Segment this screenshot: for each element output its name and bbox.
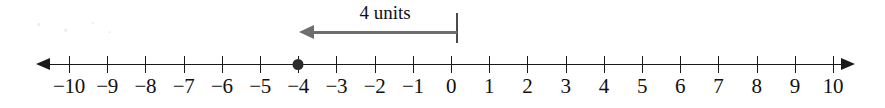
tick-7 — [718, 56, 719, 73]
tick-label-3: 3 — [560, 74, 570, 98]
tick-label--5: −5 — [249, 74, 271, 98]
tick--6 — [222, 56, 223, 73]
tick-label--8: −8 — [135, 74, 157, 98]
tick-label--3: −3 — [326, 74, 348, 98]
tick--1 — [413, 56, 414, 73]
tick--10 — [69, 56, 70, 73]
tick-label-10: 10 — [823, 74, 843, 98]
tick-label--9: −9 — [96, 74, 118, 98]
number-line-axis — [44, 64, 844, 65]
tick-label-5: 5 — [637, 74, 647, 98]
tick-3 — [566, 56, 567, 73]
tick-2 — [527, 56, 528, 73]
tick-label-2: 2 — [522, 74, 532, 98]
tick-label--1: −1 — [402, 74, 424, 98]
tick-label--2: −2 — [364, 74, 386, 98]
number-line-figure: 4 units −10−9−8−7−6−5−4−3−2−101234567891… — [0, 0, 885, 108]
tick--5 — [260, 56, 261, 73]
tick-label-8: 8 — [751, 74, 761, 98]
tick-label-9: 9 — [790, 74, 800, 98]
tick-label--7: −7 — [173, 74, 195, 98]
tick-label--10: −10 — [53, 74, 85, 98]
tick--7 — [184, 56, 185, 73]
tick-label-1: 1 — [484, 74, 494, 98]
tick-0 — [451, 56, 452, 73]
annotation-end-rule — [456, 13, 458, 43]
tick-label-4: 4 — [599, 74, 609, 98]
tick-10 — [833, 56, 834, 73]
tick-label--4: −4 — [287, 74, 309, 98]
tick-label-7: 7 — [713, 74, 723, 98]
tick-5 — [642, 56, 643, 73]
tick-4 — [604, 56, 605, 73]
tick--3 — [336, 56, 337, 73]
tick-6 — [680, 56, 681, 73]
tick-label-0: 0 — [446, 74, 456, 98]
annotation-label-4-units: 4 units — [359, 2, 410, 24]
tick-8 — [757, 56, 758, 73]
tick--2 — [375, 56, 376, 73]
scan-artifact — [18, 14, 122, 40]
tick-label-6: 6 — [675, 74, 685, 98]
axis-arrow-left-icon — [36, 58, 50, 70]
tick-label--6: −6 — [211, 74, 233, 98]
axis-arrow-right-icon — [841, 58, 855, 70]
tick--8 — [145, 56, 146, 73]
tick-1 — [489, 56, 490, 73]
plotted-point--4 — [293, 59, 304, 70]
tick--9 — [107, 56, 108, 73]
tick-9 — [795, 56, 796, 73]
annotation-arrow-shaft — [312, 31, 457, 34]
annotation-arrow-head-left — [299, 25, 314, 39]
